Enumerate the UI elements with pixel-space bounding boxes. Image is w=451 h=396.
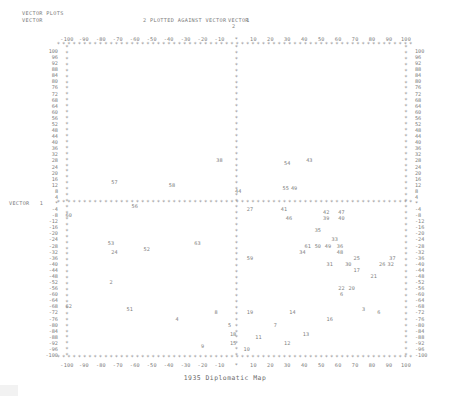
x-axis-rule-top-tick: * <box>162 42 165 48</box>
x-axis-rule-zero-tick: * <box>372 200 375 206</box>
x-axis-rule-bottom-tick: * <box>346 355 349 361</box>
y-tick-label-left: -96 <box>36 346 58 352</box>
x-axis-rule-bottom-tick: * <box>257 355 260 361</box>
x-axis-rule-bottom-tick: * <box>178 355 181 361</box>
x-axis-rule-top-tick: * <box>136 42 139 48</box>
x-axis-rule-zero-tick: * <box>304 200 307 206</box>
x-axis-rule-top-tick: * <box>288 42 291 48</box>
data-point-label: 17 <box>354 267 360 273</box>
x-axis-rule-bottom-tick: * <box>104 355 107 361</box>
x-axis-rule-zero-tick: * <box>157 200 160 206</box>
x-axis-rule-top-tick: * <box>99 42 102 48</box>
x-axis-rule-top-tick: * <box>330 42 333 48</box>
x-axis-rule-bottom-tick: * <box>99 355 102 361</box>
x-axis-rule-bottom-tick: * <box>314 355 317 361</box>
data-point-label: 11 <box>255 334 261 340</box>
x-axis-rule-zero-tick: * <box>225 200 228 206</box>
y-axis-rule-zero-tick: * <box>235 353 238 359</box>
x-tick-label-bottom: 90 <box>386 362 393 368</box>
x-axis-rule-top-tick: * <box>94 42 97 48</box>
x-axis-rule-top-tick: * <box>314 42 317 48</box>
x-axis-rule-zero-tick: * <box>356 200 359 206</box>
x-axis-rule-zero-tick: * <box>214 200 217 206</box>
data-point-label: 46 <box>286 215 292 221</box>
x-axis-rule-top-tick: * <box>246 42 249 48</box>
x-axis-rule-bottom-tick: * <box>393 355 396 361</box>
x-axis-rule-top-tick: * <box>225 42 228 48</box>
data-point-label: 58 <box>169 182 175 188</box>
x-axis-rule-top-tick: * <box>183 42 186 48</box>
x-axis-rule-zero-tick: * <box>383 200 386 206</box>
x-axis-rule-top-tick: * <box>262 42 265 48</box>
x-axis-rule-top-tick: * <box>104 42 107 48</box>
x-axis-rule-zero-tick: * <box>409 200 412 206</box>
x-axis-rule-top-tick: * <box>172 42 175 48</box>
x-axis-rule-top-tick: * <box>356 42 359 48</box>
data-point-label: 53 <box>108 240 114 246</box>
page-edge-artifact <box>0 385 18 396</box>
x-axis-rule-bottom-tick: * <box>278 355 281 361</box>
data-point-label: 62 <box>65 303 71 309</box>
y-tick-label-right: 36 <box>415 145 441 151</box>
x-axis-rule-zero-tick: * <box>199 200 202 206</box>
x-axis-rule-bottom-tick: * <box>204 355 207 361</box>
x-axis-rule-bottom-tick: * <box>388 355 391 361</box>
x-axis-rule-zero-tick: * <box>283 200 286 206</box>
y-tick-label-right: -96 <box>415 346 441 352</box>
x-axis-rule-zero-tick: * <box>125 200 128 206</box>
x-axis-rule-top-tick: * <box>335 42 338 48</box>
data-point-label: 43 <box>306 157 312 163</box>
x-axis-rule-top-tick: * <box>209 42 212 48</box>
data-point-label: 30 <box>345 261 351 267</box>
x-tick-label-bottom: 100 <box>401 362 411 368</box>
x-axis-rule-bottom-tick: * <box>94 355 97 361</box>
x-axis-rule-top-tick: * <box>141 42 144 48</box>
x-axis-rule-zero-tick: * <box>288 200 291 206</box>
x-axis-rule-zero-tick: * <box>178 200 181 206</box>
data-point-label: 9 <box>201 343 204 349</box>
x-axis-rule-top-tick: * <box>346 42 349 48</box>
x-tick-label-bottom: 10 <box>250 362 257 368</box>
x-axis-rule-bottom-tick: * <box>167 355 170 361</box>
data-point-label: 55 <box>282 185 288 191</box>
x-tick-label-bottom: -20 <box>198 362 208 368</box>
data-point-label: 51 <box>126 306 132 312</box>
x-axis-rule-bottom-tick: * <box>341 355 344 361</box>
data-point-label: 59 <box>247 255 253 261</box>
x-axis-rule-zero-tick: * <box>88 200 91 206</box>
data-point-label: 35 <box>315 227 321 233</box>
x-axis-rule-top-tick: * <box>388 42 391 48</box>
x-axis-rule-zero-tick: * <box>109 200 112 206</box>
x-axis-rule-bottom-tick: * <box>262 355 265 361</box>
data-point-label: 49 <box>325 243 331 249</box>
x-axis-rule-bottom-tick: * <box>183 355 186 361</box>
y-tick-label-right: 68 <box>415 97 441 103</box>
x-axis-rule-top-tick: * <box>230 42 233 48</box>
x-axis-rule-bottom-tick: * <box>356 355 359 361</box>
x-axis-rule-top-tick: * <box>299 42 302 48</box>
x-axis-rule-zero-tick: * <box>299 200 302 206</box>
x-axis-rule-top-tick: * <box>362 42 365 48</box>
y-tick-label-right: -64 <box>415 297 441 303</box>
x-axis-rule-bottom-tick: * <box>151 355 154 361</box>
x-axis-rule-bottom-tick: * <box>214 355 217 361</box>
x-axis-rule-bottom-tick: * <box>193 355 196 361</box>
data-point-label: 32 <box>388 261 394 267</box>
x-axis-rule-bottom-tick: * <box>130 355 133 361</box>
x-axis-rule-bottom-tick: * <box>283 355 286 361</box>
x-axis-rule-top-tick: * <box>251 42 254 48</box>
x-tick-label-bottom: 60 <box>335 362 342 368</box>
x-axis-rule-bottom-tick: * <box>78 355 81 361</box>
x-axis-rule-bottom-tick: * <box>188 355 191 361</box>
x-axis-rule-zero-tick: * <box>172 200 175 206</box>
x-axis-rule-bottom-tick: * <box>372 355 375 361</box>
vector-plot-page: VECTOR PLOTS VECTOR 2 PLOTTED AGAINST VE… <box>0 0 451 396</box>
x-axis-rule-zero-tick: * <box>78 200 81 206</box>
x-axis-rule-top-tick: * <box>351 42 354 48</box>
x-axis-rule-zero-tick: * <box>193 200 196 206</box>
x-axis-rule-zero-tick: * <box>351 200 354 206</box>
x-axis-rule-top-tick: * <box>130 42 133 48</box>
x-axis-rule-zero-tick: * <box>94 200 97 206</box>
x-axis-rule-bottom-tick: * <box>383 355 386 361</box>
data-point-label: 63 <box>194 240 200 246</box>
